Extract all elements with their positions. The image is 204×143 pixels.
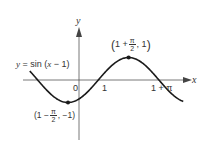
maximum-point-label: (1 +π2, 1) <box>111 37 151 52</box>
min-point-prefix: 1 − <box>37 110 49 120</box>
tick-label-one: 1 <box>102 84 107 93</box>
max-point-frac-num: π <box>129 37 136 45</box>
max-point-frac-den: 2 <box>129 45 136 52</box>
y-axis-label: y <box>76 16 80 26</box>
sine-plot <box>0 0 204 143</box>
max-point-prefix: 1 + <box>115 39 128 49</box>
minimum-point-label: (1 −π2, −1) <box>34 108 75 123</box>
minimum-point-marker <box>66 101 70 105</box>
x-axis-arrow-icon <box>183 77 192 83</box>
tick-label-one-plus-pi: 1 + π <box>151 84 172 93</box>
origin-label: 0 <box>73 84 78 93</box>
curve-label: y = sin (x − 1) <box>16 60 70 69</box>
max-point-suffix: , 1 <box>137 39 147 49</box>
min-point-frac-num: π <box>50 108 57 116</box>
min-point-suffix: , −1 <box>58 110 72 120</box>
maximum-point-marker <box>127 56 131 60</box>
min-point-frac-den: 2 <box>50 116 57 123</box>
x-axis-label: x <box>192 75 196 85</box>
y-axis-arrow-icon <box>76 27 82 37</box>
